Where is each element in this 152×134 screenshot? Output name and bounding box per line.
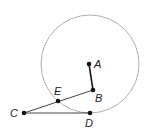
point-e — [56, 99, 61, 104]
point-c — [22, 111, 27, 116]
point-d — [88, 111, 93, 116]
label-b: B — [95, 92, 102, 104]
point-a — [87, 62, 92, 67]
label-a: A — [93, 58, 101, 70]
label-d: D — [85, 117, 93, 129]
label-e: E — [54, 85, 62, 97]
segment-ab — [89, 64, 93, 90]
label-c: C — [10, 107, 18, 119]
geometry-diagram: A B C D E — [0, 0, 152, 134]
